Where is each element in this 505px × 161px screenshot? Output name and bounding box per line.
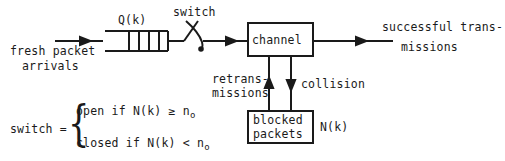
backlog-label: N(k) bbox=[320, 121, 349, 134]
switch-label: switch bbox=[173, 6, 216, 19]
switch-formula-lhs: switch = bbox=[10, 123, 67, 136]
formula-case-open: open if N(k) ≥ no bbox=[76, 105, 196, 122]
collision-label: collision bbox=[301, 78, 365, 91]
successful-label-line2: missions bbox=[401, 41, 458, 54]
retransmissions-label-line1: retrans- bbox=[212, 73, 269, 86]
formula-case-closed: closed if N(k) < no bbox=[76, 137, 210, 154]
switch-symbol bbox=[184, 21, 203, 51]
channel-label: channel bbox=[252, 34, 302, 47]
queue-buffer bbox=[105, 31, 168, 51]
fresh-arrivals-label-line2: arrivals bbox=[22, 60, 79, 73]
blocked-packets-label-line2: packets bbox=[253, 128, 303, 141]
successful-label-line1: successful trans- bbox=[382, 21, 503, 34]
queue-label: Q(k) bbox=[118, 14, 147, 27]
fresh-arrivals-label-line1: fresh packet bbox=[10, 45, 95, 58]
retransmissions-label-line2: missions bbox=[212, 87, 269, 100]
blocked-packets-label-line1: blocked bbox=[253, 114, 303, 127]
